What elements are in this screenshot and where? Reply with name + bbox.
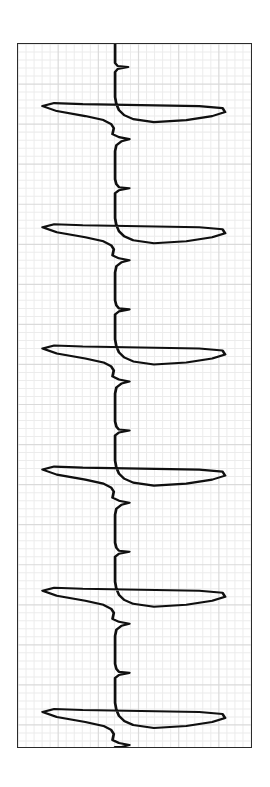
ecg-page [0,0,270,787]
ecg-waveform-trace [18,44,251,747]
ecg-strip-frame [17,43,252,748]
ecg-signal-path [43,44,226,747]
